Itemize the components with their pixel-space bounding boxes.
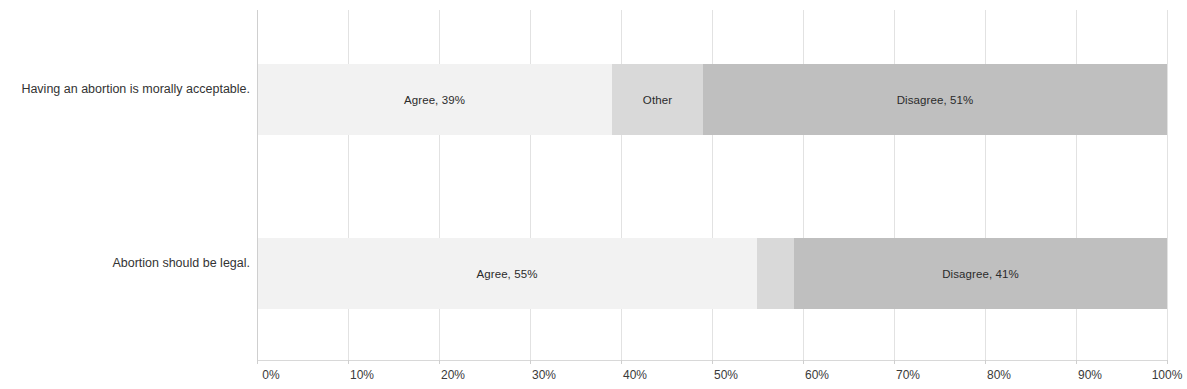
category-label-should-be-legal: Abortion should be legal. <box>0 257 250 270</box>
category-label-morally-acceptable: Having an abortion is morally acceptable… <box>0 83 250 96</box>
tickmark-60 <box>803 360 804 364</box>
x-tick-label-60: 60% <box>805 368 829 382</box>
tickmark-70 <box>894 360 895 364</box>
bar-row: Agree, 39% Other Disagree, 51% <box>257 64 1167 135</box>
x-tick-label-30: 30% <box>532 368 556 382</box>
bar-segment-disagree[interactable]: Disagree, 41% <box>794 238 1167 309</box>
bar-segment-label: Disagree, 51% <box>897 94 974 106</box>
bar-segment-other[interactable]: Other <box>757 238 794 309</box>
tickmark-0 <box>257 360 258 364</box>
bar-segment-label: Agree, 55% <box>476 268 537 280</box>
bar-segment-other[interactable]: Other <box>612 64 703 135</box>
bar-segment-label: Other <box>643 94 672 106</box>
bar-segment-disagree[interactable]: Disagree, 51% <box>703 64 1167 135</box>
x-tick-label-90: 90% <box>1078 368 1102 382</box>
tickmark-20 <box>439 360 440 364</box>
x-tick-label-0: 0% <box>262 368 279 382</box>
tickmark-30 <box>530 360 531 364</box>
tickmark-10 <box>348 360 349 364</box>
tickmark-100 <box>1167 360 1168 364</box>
stacked-bar-chart: Agree, 39% Other Disagree, 51% Agree, 55… <box>0 0 1187 389</box>
tickmark-40 <box>621 360 622 364</box>
x-tick-label-80: 80% <box>987 368 1011 382</box>
bar-segment-agree[interactable]: Agree, 39% <box>257 64 612 135</box>
bar-segment-agree[interactable]: Agree, 55% <box>257 238 757 309</box>
x-tick-label-70: 70% <box>896 368 920 382</box>
x-tick-label-20: 20% <box>441 368 465 382</box>
plot-area: Agree, 39% Other Disagree, 51% Agree, 55… <box>257 10 1167 360</box>
x-tick-label-40: 40% <box>623 368 647 382</box>
bar-row: Agree, 55% Other Disagree, 41% <box>257 238 1167 309</box>
x-tick-label-100: 100% <box>1152 368 1183 382</box>
gridline-100 <box>1167 10 1168 360</box>
tickmark-50 <box>712 360 713 364</box>
bar-segment-label: Disagree, 41% <box>942 268 1019 280</box>
x-tick-label-10: 10% <box>350 368 374 382</box>
tickmark-80 <box>985 360 986 364</box>
x-tick-label-50: 50% <box>714 368 738 382</box>
tickmark-90 <box>1076 360 1077 364</box>
value-axis-line <box>257 10 258 360</box>
bar-segment-label: Agree, 39% <box>404 94 465 106</box>
